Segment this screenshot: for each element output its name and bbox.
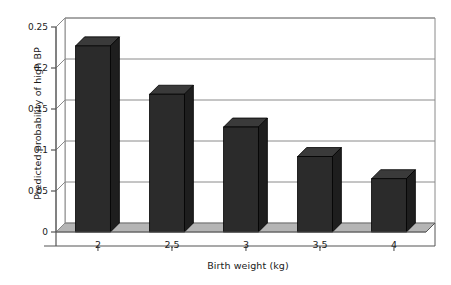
x-tick-label: 2	[68, 239, 128, 250]
bar-2.5	[150, 85, 194, 232]
y-tick-label: 0.25	[4, 22, 48, 32]
bar-2	[76, 37, 120, 232]
y-tick-label: 0.2	[4, 63, 48, 73]
bar-4	[372, 170, 416, 232]
x-tick-label: 4	[364, 239, 424, 250]
y-tick-label: 0.1	[4, 145, 48, 155]
bar-3.5	[298, 148, 342, 232]
x-tick-label: 3	[216, 239, 276, 250]
y-tick-label: 0.15	[4, 104, 48, 114]
x-tick-label: 3.5	[290, 239, 350, 250]
x-tick-label: 2.5	[142, 239, 202, 250]
chart-figure: Predicted probability of high BP Birth w…	[0, 0, 451, 285]
y-tick-label: 0.05	[4, 186, 48, 196]
y-tick-label: 0	[4, 227, 48, 237]
bar-3	[224, 118, 268, 232]
